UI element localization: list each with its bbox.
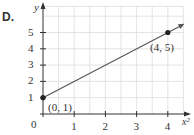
x-tick-label: 3 (134, 121, 140, 132)
y-tick-label: 4 (28, 43, 34, 54)
y-tick-label: 1 (28, 92, 34, 103)
x-tick-label: 1 (71, 121, 77, 132)
point-label: (0, 1) (48, 102, 72, 113)
data-line (43, 26, 181, 98)
x-axis-label: x² (182, 117, 189, 127)
y-tick-label: 2 (28, 75, 34, 86)
x-tick-label: 2 (102, 121, 108, 132)
data-point (165, 30, 170, 35)
y-tick-label: 3 (28, 59, 34, 70)
data-point (40, 95, 45, 100)
y-tick-label: 5 (28, 27, 34, 38)
grid-lines (43, 6, 183, 114)
data-line (43, 24, 184, 98)
origin-label: 0 (31, 119, 37, 130)
y-axis-arrow-icon (41, 2, 46, 9)
y-axis-label: y (34, 2, 39, 13)
x-tick-label: 4 (165, 121, 171, 132)
point-label: (4, 5) (150, 42, 174, 53)
